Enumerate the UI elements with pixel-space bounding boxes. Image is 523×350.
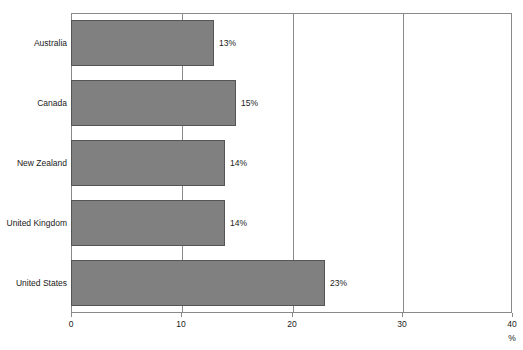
bar[interactable]: [71, 200, 225, 246]
bar-value-label: 14%: [230, 158, 247, 168]
bar[interactable]: [71, 80, 236, 126]
bar[interactable]: [71, 140, 225, 186]
bar[interactable]: [71, 20, 214, 66]
bar-row: 15%: [71, 80, 512, 126]
bar-row: 14%: [71, 200, 512, 246]
category-label: Canada: [37, 80, 67, 126]
x-tick-label: 10: [176, 319, 185, 329]
bar-value-label: 13%: [219, 38, 236, 48]
x-tick-label: 30: [397, 319, 406, 329]
category-label: Australia: [34, 20, 67, 66]
x-tick-mark: [292, 313, 293, 317]
x-tick-label: 0: [69, 319, 74, 329]
x-axis-unit-label: %: [508, 333, 516, 343]
x-tick-mark: [402, 313, 403, 317]
x-tick-mark: [71, 313, 72, 317]
bar-value-label: 15%: [241, 98, 258, 108]
bar-value-label: 14%: [230, 218, 247, 228]
bar-chart: 13%15%14%14%23% AustraliaCanadaNew Zeala…: [0, 0, 523, 350]
bar-row: 23%: [71, 260, 512, 306]
x-tick-mark: [512, 313, 513, 317]
category-label: United Kingdom: [7, 200, 67, 246]
bar-value-label: 23%: [330, 278, 347, 288]
bar-row: 14%: [71, 140, 512, 186]
clipped-chart-title: [34, 0, 364, 3]
x-axis: % 010203040: [71, 313, 512, 343]
x-tick-label: 40: [507, 319, 516, 329]
category-label: United States: [16, 260, 67, 306]
x-tick-mark: [181, 313, 182, 317]
category-axis-labels: AustraliaCanadaNew ZealandUnited Kingdom…: [0, 13, 67, 313]
bars-layer: 13%15%14%14%23%: [71, 13, 512, 313]
x-tick-label: 20: [287, 319, 296, 329]
category-label: New Zealand: [17, 140, 67, 186]
bar-row: 13%: [71, 20, 512, 66]
bar[interactable]: [71, 260, 325, 306]
